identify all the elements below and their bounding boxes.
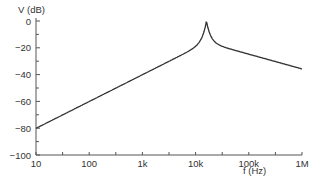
- x-axis-label: f (Hz): [243, 165, 266, 176]
- y-axis-label: V (dB): [18, 4, 45, 15]
- ticks: [36, 21, 302, 155]
- x-tick-label: 1k: [137, 158, 147, 169]
- x-tick-label: 1M: [295, 158, 308, 169]
- response-curve: [36, 22, 302, 128]
- axes: [36, 18, 302, 155]
- chart-svg: 0−20−40−60−80−100101001k10k100k1M V (dB)…: [0, 0, 317, 186]
- tick-labels: 0−20−40−60−80−100101001k10k100k1M: [10, 16, 309, 170]
- x-tick-label: 10: [31, 158, 42, 169]
- y-tick-label: −20: [15, 42, 31, 53]
- y-tick-label: −60: [15, 96, 31, 107]
- frequency-response-chart: 0−20−40−60−80−100101001k10k100k1M V (dB)…: [0, 0, 317, 186]
- y-tick-label: 0: [26, 16, 31, 27]
- y-tick-label: −100: [10, 150, 31, 161]
- y-tick-label: −40: [15, 69, 31, 80]
- x-tick-label: 10k: [188, 158, 204, 169]
- x-tick-label: 100: [81, 158, 97, 169]
- y-tick-label: −80: [15, 123, 31, 134]
